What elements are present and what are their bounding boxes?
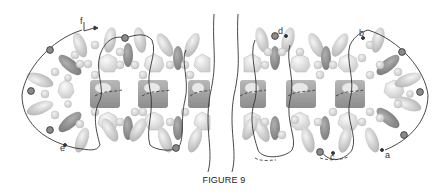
figure-caption: FIGURE 9 — [0, 175, 448, 185]
figure-9-diagram: a b c d e f — [0, 0, 448, 195]
blocks — [90, 80, 210, 108]
label-f: f — [80, 16, 83, 26]
blocks — [240, 80, 365, 108]
label-a: a — [385, 150, 390, 160]
right-structure — [239, 26, 423, 154]
label-d: d — [278, 26, 283, 36]
break-lines — [208, 14, 238, 172]
label-b: b — [359, 28, 364, 38]
label-c: c — [330, 152, 335, 162]
label-e: e — [60, 143, 65, 153]
